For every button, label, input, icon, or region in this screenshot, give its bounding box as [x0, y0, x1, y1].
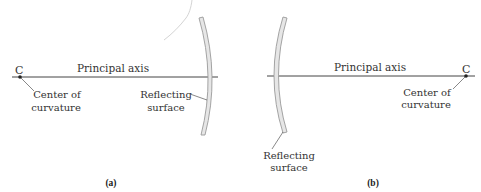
surface-label-line2-b: surface	[270, 162, 308, 173]
surface-label-line1-a: Reflecting	[140, 89, 192, 100]
center-label-line2-b: curvature	[401, 99, 451, 110]
center-label-line1-b: Center of	[403, 87, 452, 98]
surface-leader-a	[190, 94, 207, 100]
principal-axis-label-b: Principal axis	[334, 61, 406, 73]
surface-label-line1-b: Reflecting	[263, 150, 315, 161]
center-label-line1-a: Center of	[33, 89, 82, 100]
caption-b: (b)	[367, 178, 379, 189]
surface-label-line2-a: surface	[147, 102, 185, 113]
caption-a: (a)	[105, 178, 116, 189]
panel-a: C Principal axis Center of curvature Ref…	[12, 17, 218, 189]
principal-axis-label-a: Principal axis	[77, 62, 149, 74]
convex-mirror	[274, 17, 287, 133]
center-symbol-b: C	[462, 63, 470, 76]
concave-mirror	[199, 17, 212, 135]
center-label-line2-a: curvature	[31, 102, 81, 113]
panel-b: C Principal axis Center of curvature Ref…	[263, 17, 475, 189]
center-leader-a	[21, 78, 34, 91]
mirror-diagram: C Principal axis Center of curvature Ref…	[0, 0, 481, 192]
center-leader-b	[453, 77, 465, 89]
faint-circle-arc	[164, 0, 192, 40]
center-symbol-a: C	[15, 64, 23, 77]
surface-leader-b	[272, 132, 283, 149]
